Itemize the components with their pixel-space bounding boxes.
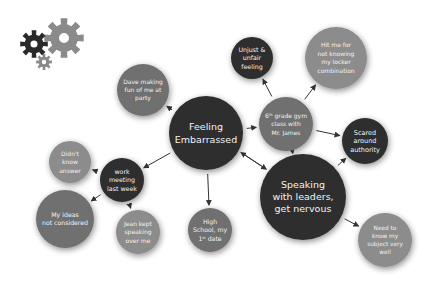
edge-feeling-to-work [144,153,170,168]
edge-feeling-to-highschool [208,174,209,205]
node-circle [358,213,412,267]
edge-speaking-to-needto [345,219,359,226]
edge-gym-to-unjust [263,79,272,96]
gear-shape [44,18,83,57]
node-label-line: Dave making [123,78,163,86]
node-myideas: My ideasnot considered [36,190,94,248]
node-label-line: feeling [241,63,262,71]
node-label-line: My ideas [51,211,78,219]
gears-icon [20,18,83,70]
edge-gym-to-scared [316,131,339,136]
node-label-line: Unjust & [238,46,265,54]
node-label-line: Mr. James [271,129,300,137]
node-label-line: fun of me at [125,86,162,93]
node-label-line: 1st date [198,235,221,242]
node-label-line: unfair [243,54,262,61]
node-unjust: Unjust &unfairfeeling [231,37,273,79]
node-label-line: know [62,158,78,165]
node-work: workmeetinglast week [100,158,144,202]
node-label-line: Hit me for [321,41,352,48]
node-needto: Need toknow mysubject verywell [358,213,412,267]
edge-work-to-jean [130,205,131,208]
nodes: FeelingEmbarrassedSpeakingwith leaders,g… [36,27,412,267]
node-label-line: Speaking [281,179,325,190]
node-label-line: Jean kept [123,220,153,228]
node-label-line: party [135,94,151,102]
node-gym: 6th grade gymclass withMr. James [259,97,313,151]
node-label-line: answer [59,167,81,174]
node-hitme: Hit me fornot knowingmy lockercombinatio… [305,27,367,89]
node-label-line: subject very [367,241,403,248]
node-label-line: Scared [354,129,376,137]
node-label-line: Need to [374,225,397,231]
mind-map-canvas: FeelingEmbarrassedSpeakingwith leaders,g… [0,0,437,284]
node-label-line: get nervous [275,203,332,214]
node-label-line: not knowing [318,50,355,58]
node-label-line: work [114,168,130,175]
node-label-line: meeting [109,176,135,184]
edge-gym-to-hitme [305,85,316,99]
node-scared: Scaredaroundauthority [342,118,388,164]
gear-large-icon [44,18,83,57]
node-label-line: class with [271,120,301,127]
edge-work-to-didnt [93,170,98,172]
node-speaking: Speakingwith leaders,get nervous [260,154,346,240]
node-label-line: my locker [321,58,351,66]
gear-dark-icon [20,30,48,58]
node-label-line: well [379,249,391,255]
edge-speaking-to-feeling [241,153,265,169]
node-label-line: High [203,218,217,226]
node-label-line: Embarrassed [175,134,237,145]
node-label-line: last week [107,185,137,192]
node-label-line: School, my [193,226,228,234]
node-label-line: authority [350,146,380,154]
edge-speaking-to-scared [338,158,346,165]
edge-feeling-to-dave [167,106,172,110]
node-label-line: around [354,137,377,145]
gear-small-icon [36,54,52,70]
node-label-line: speaking [124,228,151,236]
node-label-line: Feeling [189,121,223,132]
node-label-line: combination [317,67,354,74]
node-didnt: Didn'tknowanswer [49,141,91,183]
node-jean: Jean keptspeakingover me [116,210,160,254]
node-label-line: Didn't [61,150,80,157]
node-dave: Dave makingfun of me atparty [117,64,169,116]
node-label-line: over me [126,237,151,244]
node-label-line: know my [372,233,399,240]
node-label-line: with leaders, [272,191,333,202]
node-highschool: HighSchool, my1st date [188,208,232,252]
edge-work-to-myideas [91,195,100,201]
gear-shape [20,30,48,58]
node-feeling: FeelingEmbarrassed [169,96,243,170]
node-label-line: not considered [42,219,88,226]
gear-shape [36,54,52,70]
edge-feeling-to-gym [247,127,256,128]
